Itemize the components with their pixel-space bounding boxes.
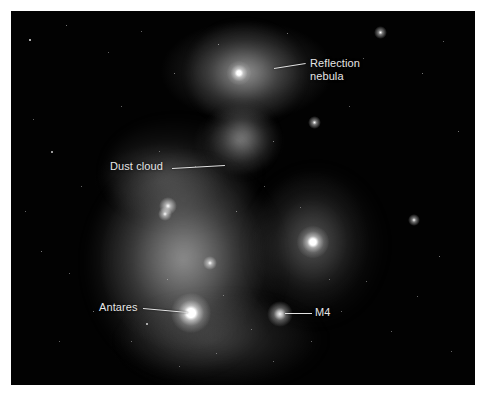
annotation-label-dust-cloud: Dust cloud (110, 160, 163, 173)
annotation-label-antares: Antares (99, 301, 138, 314)
annotation-label-reflection-nebula: Reflection nebula (310, 57, 360, 82)
star-field-background (11, 11, 475, 385)
figure-canvas: Reflection nebulaDust cloudAntaresM4 (0, 0, 488, 394)
astrophotograph-plate: Reflection nebulaDust cloudAntaresM4 (11, 11, 475, 385)
leader-line-m4 (285, 313, 312, 314)
annotation-label-m4: M4 (315, 306, 330, 319)
